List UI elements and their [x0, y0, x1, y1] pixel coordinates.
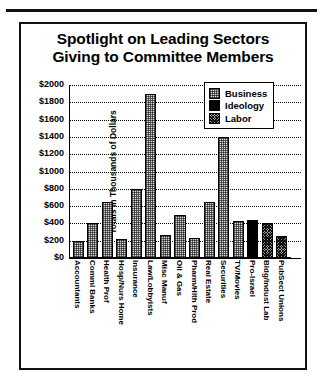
bar-slot [100, 85, 115, 258]
x-axis-tick-label: Bldg/Indust Lab [262, 260, 271, 320]
chart-title-line-1: Spotlight on Leading Sectors [21, 30, 305, 48]
x-axis-tick-label: Misc Manuf [160, 260, 169, 304]
legend-item[interactable]: Ideology [209, 100, 267, 111]
bar-slot [274, 85, 289, 258]
bar-slot [173, 85, 188, 258]
y-axis-tick-label: $1000 [39, 166, 64, 176]
x-label-slot: Law/Lobbyists [144, 260, 159, 364]
bar[interactable] [116, 239, 127, 258]
x-axis-labels: AccountantsComml BanksHealth ProfHosp/Nu… [69, 260, 291, 364]
x-label-slot: Misc Manuf [158, 260, 173, 364]
legend-swatch-icon [209, 88, 220, 99]
bar[interactable] [218, 137, 229, 258]
chart-figure: Spotlight on Leading Sectors Giving to C… [19, 22, 307, 370]
bar[interactable] [174, 215, 185, 258]
x-label-slot: Pharm/Hlth Prod [187, 260, 202, 364]
x-axis-tick-label: TV/Movies [233, 260, 242, 300]
bar[interactable] [276, 236, 287, 258]
legend-label: Labor [225, 113, 251, 124]
legend-label: Business [225, 88, 267, 99]
chart-title-line-2: Giving to Committee Members [21, 48, 305, 66]
x-label-slot: Securities [216, 260, 231, 364]
legend-swatch-icon [209, 113, 220, 124]
x-axis-tick-label: Accountants [73, 260, 82, 308]
bar-slot [144, 85, 159, 258]
x-axis-tick-label: Pharm/Hlth Prod [190, 260, 199, 323]
x-label-slot: Comml Banks [86, 260, 101, 364]
x-axis-tick-label: Pro-Israel [248, 260, 257, 297]
y-axis-tick-label: $2000 [39, 79, 64, 89]
x-label-slot: Insurance [129, 260, 144, 364]
x-axis-tick-label: PubSect Unions [277, 260, 286, 321]
x-axis-tick-label: Securities [219, 260, 228, 298]
x-axis-line [69, 257, 291, 258]
bar-slot [158, 85, 173, 258]
chart-title: Spotlight on Leading Sectors Giving to C… [21, 30, 305, 67]
x-label-slot: TV/Movies [231, 260, 246, 364]
y-axis-tick-label: $600 [44, 200, 64, 210]
x-axis-tick-label: Real Estate [204, 260, 213, 303]
bar-slot [86, 85, 101, 258]
y-axis-tick-label: $400 [44, 217, 64, 227]
x-axis-tick-label: Comml Banks [88, 260, 97, 313]
page-top-rule [6, 9, 317, 12]
x-label-slot: Oil & Gas [173, 260, 188, 364]
x-axis-tick-label: Hosp/Nurs Home [117, 260, 126, 325]
legend-swatch-icon [209, 100, 220, 111]
x-axis-tick-label: Health Prof [102, 260, 111, 303]
bar-slot [71, 85, 86, 258]
y-axis-tick-label: $200 [44, 235, 64, 245]
y-axis-tick-label: $800 [44, 183, 64, 193]
legend-label: Ideology [225, 100, 264, 111]
y-axis-tick-label: $1600 [39, 114, 64, 124]
y-axis-tick-label: $1400 [39, 131, 64, 141]
bar[interactable] [102, 202, 113, 258]
bar[interactable] [87, 223, 98, 258]
y-axis-tick-label: $1800 [39, 96, 64, 106]
bar-slot [187, 85, 202, 258]
bar-slot [129, 85, 144, 258]
x-label-slot: PubSect Unions [274, 260, 289, 364]
x-axis-tick-label: Law/Lobbyists [146, 260, 155, 316]
x-axis-tick-label: Insurance [131, 260, 140, 298]
x-label-slot: Hosp/Nurs Home [115, 260, 130, 364]
legend-item[interactable]: Labor [209, 113, 267, 124]
bar[interactable] [247, 220, 258, 258]
bar[interactable] [262, 223, 273, 258]
bar[interactable] [131, 189, 142, 258]
gridline [69, 258, 301, 259]
bar[interactable] [73, 241, 84, 258]
y-axis-line [69, 85, 70, 258]
y-axis-tick-label: $1200 [39, 148, 64, 158]
bar[interactable] [189, 238, 200, 258]
bar[interactable] [233, 221, 244, 258]
bar[interactable] [145, 94, 156, 258]
bar[interactable] [160, 235, 171, 258]
x-axis-tick-label: Oil & Gas [175, 260, 184, 296]
y-axis-tick-label: $0 [54, 252, 64, 262]
bar[interactable] [204, 202, 215, 258]
x-label-slot: Bldg/Indust Lab [260, 260, 275, 364]
chart-legend: BusinessIdeologyLabor [204, 82, 274, 129]
x-label-slot: Pro-Israel [245, 260, 260, 364]
bar-slot [115, 85, 130, 258]
x-label-slot: Accountants [71, 260, 86, 364]
legend-item[interactable]: Business [209, 88, 267, 99]
x-label-slot: Health Prof [100, 260, 115, 364]
x-label-slot: Real Estate [202, 260, 217, 364]
